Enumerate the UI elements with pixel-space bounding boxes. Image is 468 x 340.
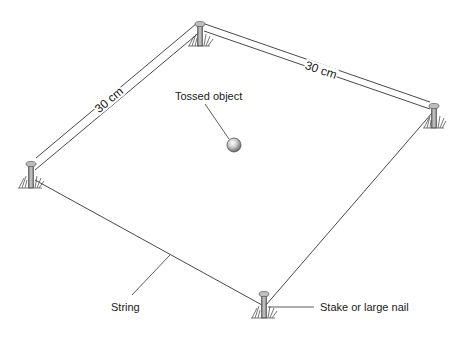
string-lines [35, 24, 432, 305]
tossed-object-label: Tossed object [175, 90, 242, 102]
ball-icon [227, 138, 241, 152]
stake-right [423, 103, 446, 128]
diagram-canvas: 30 cm 30 cm Tossed object String Stake o… [0, 0, 468, 340]
string-leader [132, 255, 170, 295]
dimension-label-left: 30 cm [92, 84, 126, 116]
svg-text:30 cm: 30 cm [92, 84, 126, 116]
stake-icon [423, 103, 446, 128]
string-label: String [111, 301, 140, 313]
stake-bottom [251, 291, 277, 318]
stake-icon [251, 291, 277, 318]
dimension-label-right: 30 cm [303, 58, 339, 82]
svg-text:30 cm: 30 cm [303, 58, 338, 82]
string-right-bottom [266, 113, 432, 305]
tossed-object-leader [205, 104, 229, 139]
stake-label: Stake or large nail [320, 301, 409, 313]
string-left-bottom [35, 180, 262, 305]
